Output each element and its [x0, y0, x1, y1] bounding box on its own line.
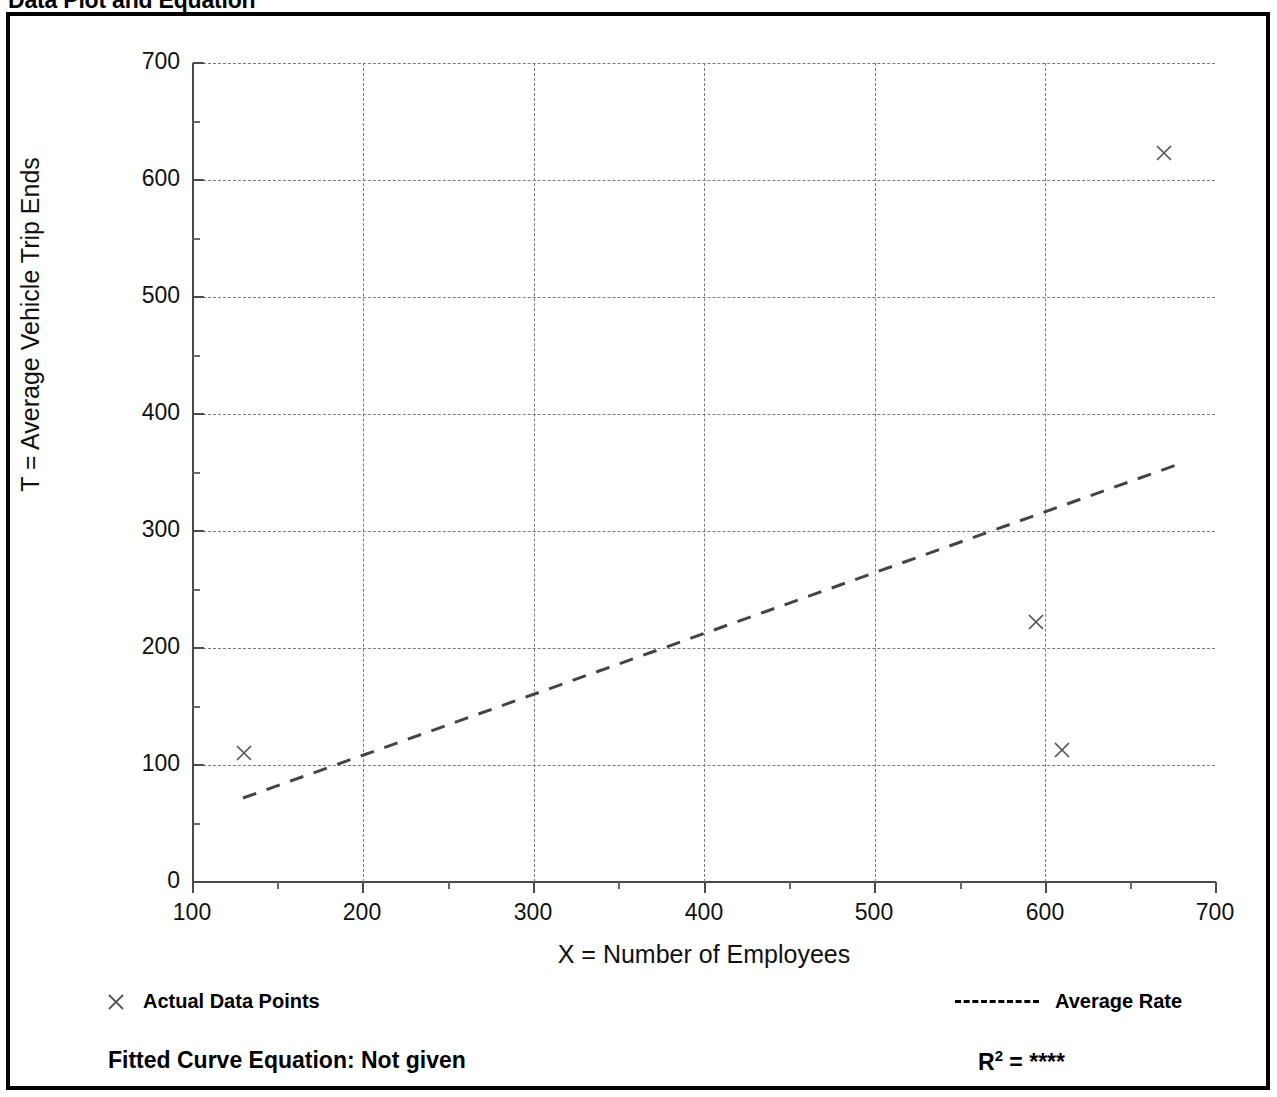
gridline-x-500 — [875, 63, 876, 882]
dashed-line-icon — [955, 1000, 1039, 1003]
legend-average-rate: Average Rate — [955, 990, 1182, 1013]
x-tick-label-500: 500 — [824, 899, 924, 926]
y-axis-title: T = Average Vehicle Trip Ends — [16, 95, 45, 555]
x-tick-200 — [362, 882, 364, 893]
x-tick-label-400: 400 — [654, 899, 754, 926]
x-tick-label-300: 300 — [483, 899, 583, 926]
x-marker-icon — [1026, 612, 1046, 632]
x-marker-icon — [1052, 740, 1072, 760]
y-tick-label-700: 700 — [0, 48, 180, 75]
x-tick-450 — [789, 882, 791, 889]
r-squared-exponent: 2 — [995, 1047, 1003, 1064]
gridline-x-200 — [363, 63, 364, 882]
x-tick-550 — [960, 882, 962, 889]
y-tick-500 — [193, 296, 204, 298]
x-tick-700 — [1215, 882, 1217, 893]
gridline-x-300 — [534, 63, 535, 882]
gridline-x-400 — [704, 63, 705, 882]
x-tick-label-200: 200 — [312, 899, 412, 926]
y-tick-label-0: 0 — [0, 867, 180, 894]
y-tick-700 — [193, 62, 204, 64]
x-tick-500 — [874, 882, 876, 893]
x-tick-300 — [533, 882, 535, 893]
y-tick-450 — [193, 355, 200, 357]
plot-area — [193, 63, 1215, 882]
data-point-marker[interactable] — [1052, 740, 1072, 760]
y-tick-150 — [193, 706, 200, 708]
data-point-marker[interactable] — [1026, 612, 1046, 632]
y-tick-label-200: 200 — [0, 633, 180, 660]
r-squared-equals-value: = **** — [1009, 1049, 1065, 1075]
x-axis-title: X = Number of Employees — [193, 940, 1215, 969]
legend-label-average-rate: Average Rate — [1055, 990, 1182, 1013]
x-tick-600 — [1045, 882, 1047, 893]
y-tick-300 — [193, 530, 204, 532]
x-tick-650 — [1130, 882, 1132, 889]
gridline-x-600 — [1045, 63, 1046, 882]
x-marker-icon — [105, 991, 127, 1013]
y-tick-200 — [193, 647, 204, 649]
y-tick-100 — [193, 764, 204, 766]
legend-actual-data-points: Actual Data Points — [105, 990, 320, 1013]
fitted-curve-equation: Fitted Curve Equation: Not given — [108, 1047, 466, 1074]
x-tick-250 — [448, 882, 450, 889]
x-tick-100 — [192, 882, 194, 893]
y-tick-label-100: 100 — [0, 750, 180, 777]
y-tick-650 — [193, 121, 200, 123]
y-tick-550 — [193, 238, 200, 240]
y-tick-350 — [193, 472, 200, 474]
x-marker-icon — [1154, 143, 1174, 163]
y-tick-250 — [193, 589, 200, 591]
y-tick-400 — [193, 413, 204, 415]
y-tick-50 — [193, 823, 200, 825]
r-squared-prefix: R — [978, 1049, 995, 1075]
data-point-marker[interactable] — [234, 743, 254, 763]
y-tick-600 — [193, 179, 204, 181]
x-tick-150 — [277, 882, 279, 889]
x-tick-350 — [618, 882, 620, 889]
y-tick-0 — [193, 881, 204, 883]
x-tick-label-600: 600 — [995, 899, 1095, 926]
data-point-marker[interactable] — [1154, 143, 1174, 163]
r-squared-value: R2 = **** — [978, 1047, 1065, 1076]
x-tick-400 — [704, 882, 706, 893]
legend-label-actual-data-points: Actual Data Points — [143, 990, 320, 1013]
x-marker-icon — [234, 743, 254, 763]
x-tick-label-700: 700 — [1165, 899, 1265, 926]
x-tick-label-100: 100 — [142, 899, 242, 926]
